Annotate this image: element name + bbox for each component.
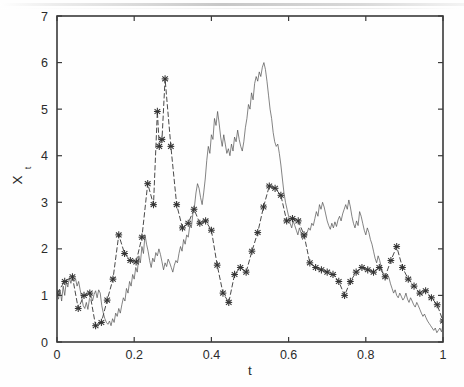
data-point-marker [364, 266, 371, 273]
data-point-marker [104, 296, 111, 303]
data-point-marker [159, 136, 166, 143]
axes-box [57, 16, 443, 342]
data-point-marker [202, 217, 209, 224]
data-point-marker [434, 301, 441, 308]
y-tick-label: 0 [41, 336, 48, 350]
y-axis-label: X [10, 175, 25, 184]
figure-canvas: 00.20.40.60.81 01234567 t X t [0, 0, 464, 387]
data-point-marker [272, 185, 279, 192]
x-tick-label: 0.2 [126, 348, 143, 362]
y-tick-label: 6 [41, 56, 48, 70]
data-point-marker [61, 278, 68, 285]
data-point-marker [411, 283, 418, 290]
data-point-marker [359, 264, 366, 271]
data-point-marker [92, 322, 99, 329]
data-point-marker [243, 269, 250, 276]
x-tick-label: 0.4 [203, 348, 220, 362]
data-point-marker [237, 264, 244, 271]
y-tick-label: 2 [41, 242, 48, 256]
y-axis-label-group: X t [10, 166, 33, 184]
x-tick-label: 1 [440, 348, 447, 362]
data-point-marker [353, 269, 360, 276]
data-point-marker [167, 143, 174, 150]
chart-plot: 00.20.40.60.81 01234567 t X t [0, 0, 464, 387]
data-point-marker [154, 108, 161, 115]
data-point-marker [387, 257, 394, 264]
x-tick-label: 0.8 [357, 348, 374, 362]
data-point-marker [121, 250, 128, 257]
data-point-marker [405, 276, 412, 283]
y-tick-label: 5 [41, 103, 48, 117]
y-tick-label: 3 [41, 196, 48, 210]
data-point-marker [335, 278, 342, 285]
y-tick-label: 7 [41, 10, 48, 24]
data-point-marker [225, 299, 232, 306]
data-point-marker [156, 143, 163, 150]
data-point-marker [208, 227, 215, 234]
data-point-marker [150, 201, 157, 208]
data-point-marker [312, 264, 319, 271]
series-layer [54, 63, 447, 333]
data-point-marker [306, 259, 313, 266]
data-point-marker [341, 292, 348, 299]
data-point-marker [231, 271, 238, 278]
data-point-marker [376, 264, 383, 271]
x-axis-label: t [248, 363, 252, 378]
data-point-marker [173, 201, 180, 208]
data-point-marker [260, 203, 267, 210]
data-point-marker [75, 305, 82, 312]
data-point-marker [110, 276, 117, 283]
y-axis-tick-labels: 01234567 [41, 10, 48, 350]
data-point-marker [422, 287, 429, 294]
data-point-marker [324, 269, 331, 276]
x-axis-tick-labels: 00.20.40.60.81 [54, 348, 447, 362]
data-point-marker [330, 271, 337, 278]
data-point-marker [249, 248, 256, 255]
axis-ticks [57, 16, 443, 342]
data-point-marker [277, 192, 284, 199]
data-point-marker [301, 231, 308, 238]
y-tick-label: 1 [41, 289, 48, 303]
data-point-marker [139, 234, 146, 241]
data-point-marker [220, 290, 227, 297]
data-point-marker [179, 224, 186, 231]
x-tick-label: 0.6 [280, 348, 297, 362]
data-point-marker [399, 264, 406, 271]
data-point-marker [393, 243, 400, 250]
data-point-marker [416, 290, 423, 297]
data-point-marker [428, 294, 435, 301]
data-point-marker [69, 273, 76, 280]
y-axis-label-subscript: t [23, 166, 33, 169]
data-point-marker [295, 217, 302, 224]
data-point-marker [196, 220, 203, 227]
data-point-marker [185, 220, 192, 227]
data-point-marker [144, 180, 151, 187]
data-point-marker [191, 206, 198, 213]
data-point-marker [289, 215, 296, 222]
data-point-marker [318, 266, 325, 273]
data-point-marker [266, 182, 273, 189]
data-point-marker [81, 292, 88, 299]
data-point-marker [133, 258, 140, 265]
data-point-marker [115, 231, 122, 238]
data-point-marker [254, 229, 261, 236]
data-point-marker [370, 269, 377, 276]
data-point-marker [382, 273, 389, 280]
data-point-marker [283, 217, 290, 224]
x-tick-label: 0 [54, 348, 61, 362]
data-point-marker [127, 257, 134, 264]
data-point-marker [86, 290, 93, 297]
series-observed-path [57, 63, 443, 333]
data-point-marker [347, 278, 354, 285]
data-point-marker [214, 262, 221, 269]
data-point-marker [98, 319, 105, 326]
series-marker-group [54, 75, 447, 329]
data-point-marker [162, 75, 169, 82]
y-tick-label: 4 [41, 149, 48, 163]
series-filtered-estimate [57, 79, 443, 326]
